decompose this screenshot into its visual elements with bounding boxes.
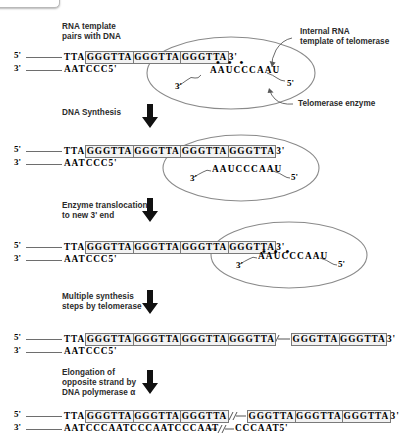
step5-bottom-lead-line <box>26 429 62 430</box>
internal-rna-pointer <box>272 38 292 67</box>
step2-bottom-strand: AATCCC5' <box>64 158 118 168</box>
step-caption-rna-template-pairs: RNA template pairs with DNA <box>62 22 121 42</box>
step5-bottom-strand-left: AATCCCAATCCCAATCCCAAT <box>64 423 219 433</box>
step2-top-repeat-box: GGGTTA <box>85 145 134 158</box>
step5-top-suffix: 3' <box>391 411 400 422</box>
step1-top-strand: TTA GGGTTA GGGTTA GGGTTA 3' <box>64 51 238 64</box>
step1-bottom-strand: AATCCC5' <box>64 64 118 74</box>
telomerase-enzyme-pointer-head <box>268 88 274 93</box>
step2-top-suffix: 3' <box>276 146 285 157</box>
step2-top-repeat-box: GGGTTA <box>133 145 182 158</box>
step5-top-repeat-box-after: GGGTTA <box>295 410 344 423</box>
step2-top-prefix: TTA <box>64 146 85 157</box>
step1-rna-template-sequence: AAUCCCAAU <box>210 65 280 75</box>
step4-top-repeat-box: GGGTTA <box>180 333 229 346</box>
telomerase-enzyme-pointer <box>270 91 293 104</box>
step5-top-five-prime-label: 5' <box>14 409 21 419</box>
step1-base-pair-dots: • • • <box>216 60 246 64</box>
strand-break-slash-step5-top-2 <box>233 412 237 420</box>
step5-top-repeat-box: GGGTTA <box>133 410 182 423</box>
step2-top-five-prime-label: 5' <box>14 144 21 154</box>
step5-top-repeat-box: GGGTTA <box>180 410 229 423</box>
step3-top-strand: TTA GGGTTA GGGTTA GGGTTA GGGTTA 3' <box>64 241 285 254</box>
step1-bottom-lead-line <box>26 70 62 71</box>
step1-top-five-prime-label: 5' <box>14 50 21 60</box>
step2-top-repeat-box: GGGTTA <box>228 145 277 158</box>
step5-bottom-strand-right: CCCAAT5' <box>235 423 289 433</box>
step5-top-repeat-box-after: GGGTTA <box>342 410 391 423</box>
step4-bottom-three-prime-label: 3' <box>14 345 21 355</box>
step5-top-strand-left: TTA GGGTTA GGGTTA GGGTTA <box>64 410 229 423</box>
step3-bottom-strand: AATCCC5' <box>64 254 118 264</box>
step2-top-strand: TTA GGGTTA GGGTTA GGGTTA GGGTTA 3' <box>64 145 285 158</box>
down-arrow-step3 <box>142 198 158 222</box>
step4-top-suffix: 3' <box>387 334 396 345</box>
step4-top-lead-line <box>26 339 62 340</box>
step-caption-multiple-synthesis: Multiple synthesis steps by telomerase <box>62 292 142 312</box>
annotation-telomerase-enzyme: Telomerase enzyme <box>298 99 375 109</box>
step1-bottom-three-prime-label: 3' <box>14 63 21 73</box>
step1-rna-three-prime-label: 3' <box>175 81 182 91</box>
step4-bottom-strand: AATCCC5' <box>64 346 118 356</box>
annotation-internal-rna-template: Internal RNA template of telomerase <box>300 27 389 48</box>
step5-top-lead-line <box>26 416 62 417</box>
step1-top-lead-line <box>26 57 62 58</box>
step3-top-repeat-box: GGGTTA <box>133 241 182 254</box>
step1-rna-five-prime-label: 5' <box>287 78 294 88</box>
down-arrow-step2 <box>142 104 158 128</box>
step3-rna-template-sequence: AAUCCCAAU <box>258 251 328 261</box>
step3-top-lead-line <box>26 247 62 248</box>
step-caption-elongation-opposite-strand: Elongation of opposite strand by DNA pol… <box>62 368 136 399</box>
step5-top-strand-right: GGGTTA GGGTTA GGGTTA 3' <box>247 410 400 423</box>
step2-bottom-lead-line <box>26 164 62 165</box>
step2-top-lead-line <box>26 151 62 152</box>
step4-top-five-prime-label: 5' <box>14 332 21 342</box>
step5-bottom-three-prime-label: 3' <box>14 422 21 432</box>
step3-top-repeat-box: GGGTTA <box>180 241 229 254</box>
step2-rna-three-prime-label: 3' <box>190 173 197 183</box>
step4-top-strand-right: GGGTTA GGGTTA 3' <box>291 333 396 346</box>
step5-top-repeat-box: GGGTTA <box>85 410 134 423</box>
step3-top-repeat-box: GGGTTA <box>85 241 134 254</box>
step2-rna-five-prime-label: 5' <box>291 172 298 182</box>
step4-top-repeat-box: GGGTTA <box>133 333 182 346</box>
step5-top-prefix: TTA <box>64 411 85 422</box>
step3-rna-three-prime-label: 3' <box>236 260 243 270</box>
step3-bottom-lead-line <box>26 260 62 261</box>
step1-top-repeat-box: GGGTTA <box>85 51 134 64</box>
step4-top-strand-left: TTA GGGTTA GGGTTA GGGTTA GGGTTA <box>64 333 276 346</box>
telomerase-diagram: RNA template pairs with DNA DNA Synthesi… <box>0 0 418 445</box>
step4-top-repeat-box-after: GGGTTA <box>291 333 340 346</box>
down-arrow-step4 <box>142 290 158 314</box>
strand-break-slash-step5-top-1 <box>229 412 233 420</box>
window-chrome-fragment <box>0 0 60 8</box>
step1-top-prefix: TTA <box>64 52 85 63</box>
step2-bottom-three-prime-label: 3' <box>14 157 21 167</box>
step-caption-dna-synthesis: DNA Synthesis <box>62 108 121 118</box>
step2-top-repeat-box: GGGTTA <box>180 145 229 158</box>
down-arrow-step5 <box>142 370 158 394</box>
step-caption-enzyme-translocation: Enzyme translocation to new 3' end <box>62 201 148 221</box>
step1-top-repeat-box: GGGTTA <box>133 51 182 64</box>
step4-bottom-lead-line <box>26 352 62 353</box>
step4-top-prefix: TTA <box>64 334 85 345</box>
step3-bottom-three-prime-label: 3' <box>14 253 21 263</box>
step3-top-five-prime-label: 5' <box>14 240 21 250</box>
step5-top-repeat-box-after: GGGTTA <box>247 410 296 423</box>
strand-break-slash-step5-bot-2 <box>222 425 226 433</box>
step3-top-prefix: TTA <box>64 242 85 253</box>
step4-top-repeat-box: GGGTTA <box>85 333 134 346</box>
step2-rna-template-sequence: AAUCCCAAU <box>212 164 282 174</box>
step4-top-repeat-box-after: GGGTTA <box>339 333 388 346</box>
step3-rna-five-prime-label: 5' <box>338 259 345 269</box>
step4-top-repeat-box: GGGTTA <box>228 333 277 346</box>
